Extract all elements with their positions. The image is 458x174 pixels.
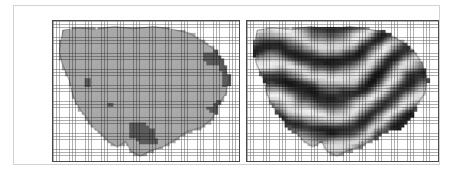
figure-root <box>0 0 458 174</box>
continuous-raster-panel[interactable] <box>246 20 439 162</box>
classified-raster-canvas <box>53 21 239 161</box>
figure-outer-frame <box>13 5 440 165</box>
classified-raster-panel[interactable] <box>52 20 240 162</box>
continuous-raster-canvas <box>247 21 438 161</box>
